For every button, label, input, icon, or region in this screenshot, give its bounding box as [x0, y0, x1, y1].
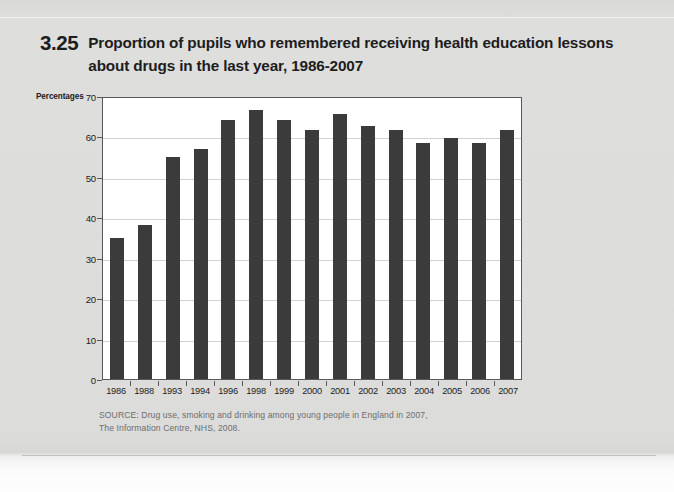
x-axis-label-text: 2000 [302, 386, 322, 396]
x-axis-tick-label: 1998 [242, 381, 270, 397]
y-axis-tick-label: 50 [36, 172, 102, 183]
bar [333, 114, 347, 379]
y-axis-tick-label: 40 [36, 213, 102, 224]
bar [389, 130, 403, 379]
y-axis-tick-label: 0 [36, 375, 102, 386]
x-axis-tick-mark [382, 381, 383, 386]
x-axis-tick-label: 2006 [466, 381, 494, 397]
x-axis-tick-mark [270, 381, 271, 386]
x-axis-tick-mark [466, 381, 467, 386]
x-axis-tick-label: 1986 [102, 381, 130, 397]
x-axis-tick-mark [298, 381, 299, 386]
x-axis-label-text: 2003 [386, 386, 406, 396]
x-axis-tick-label: 2005 [438, 381, 466, 397]
bar-slot [493, 98, 521, 379]
x-axis-tick-label: 2001 [326, 381, 354, 397]
y-axis-tick-label: 20 [36, 294, 102, 305]
x-axis-tick-mark [130, 381, 131, 386]
x-axis-label-text: 2006 [470, 386, 490, 396]
x-axis-tick-mark [186, 381, 187, 386]
bar [500, 130, 514, 379]
bar [277, 120, 291, 379]
bar [444, 138, 458, 379]
bar [110, 238, 124, 380]
bar-slot [242, 98, 270, 379]
page-background: 3.25 Proportion of pupils who remembered… [0, 0, 674, 492]
source-note: SOURCE: Drug use, smoking and drinking a… [99, 409, 559, 434]
x-axis-label-text: 1998 [246, 386, 266, 396]
x-axis-tick-mark [410, 381, 411, 386]
x-axis-tick-mark [326, 381, 327, 386]
x-axis-tick-label: 2002 [354, 381, 382, 397]
x-axis-tick-mark [242, 381, 243, 386]
bottom-divider [22, 455, 656, 456]
x-axis-label-text: 1996 [218, 386, 238, 396]
bar-slot [159, 98, 187, 379]
bar-slot [270, 98, 298, 379]
x-axis-label-text: 1994 [190, 386, 210, 396]
bar-slot [354, 98, 382, 379]
y-axis-tick-label: 60 [36, 132, 102, 143]
top-divider [0, 17, 674, 18]
bar [138, 225, 152, 379]
bar [166, 157, 180, 379]
page-title: Proportion of pupils who remembered rece… [88, 32, 633, 77]
bar-chart: Percentages 010203040506070 198619881993… [36, 92, 536, 402]
bar-slot [437, 98, 465, 379]
source-line-2: The Information Centre, NHS, 2008. [99, 422, 559, 435]
x-axis-label-text: 2007 [498, 386, 518, 396]
x-axis-tick-label: 2004 [410, 381, 438, 397]
x-axis-tick-label: 2003 [382, 381, 410, 397]
x-axis-tick-label: 2000 [298, 381, 326, 397]
x-axis-tick-label: 1994 [186, 381, 214, 397]
bar [416, 143, 430, 380]
x-axis-tick-label: 2007 [494, 381, 522, 397]
x-axis-tick-mark [438, 381, 439, 386]
x-axis-tick-label: 1999 [270, 381, 298, 397]
bar [305, 130, 319, 379]
bar [361, 126, 375, 379]
y-axis-tick-label: 70 [36, 92, 102, 103]
x-axis-labels: 1986198819931994199619981999200020012002… [102, 381, 522, 397]
x-axis-label-text: 2002 [358, 386, 378, 396]
bar-slot [103, 98, 131, 379]
bar [249, 110, 263, 379]
x-axis-label-text: 2005 [442, 386, 462, 396]
bar-slot [465, 98, 493, 379]
bar-slot [298, 98, 326, 379]
bar [472, 143, 486, 380]
bar [221, 120, 235, 379]
source-line-1: SOURCE: Drug use, smoking and drinking a… [99, 409, 559, 422]
bar-slot [131, 98, 159, 379]
bar-slot [382, 98, 410, 379]
x-axis-tick-mark [214, 381, 215, 386]
x-axis-tick-mark [354, 381, 355, 386]
figure-number: 3.25 [40, 32, 88, 54]
bar-slot [187, 98, 215, 379]
x-axis-label-text: 2004 [414, 386, 434, 396]
bar-series [103, 98, 521, 379]
x-axis-tick-label: 1996 [214, 381, 242, 397]
x-axis-label-text: 1988 [134, 386, 154, 396]
x-axis-label-text: 1993 [162, 386, 182, 396]
x-axis-tick-mark [158, 381, 159, 386]
x-axis-tick-label: 1993 [158, 381, 186, 397]
x-axis-tick-mark [494, 381, 495, 386]
x-axis-label-text: 2001 [330, 386, 350, 396]
bar-slot [409, 98, 437, 379]
y-axis-tick-label: 10 [36, 334, 102, 345]
bar-slot [214, 98, 242, 379]
plot-area [102, 97, 522, 380]
x-axis-label-text: 1986 [106, 386, 126, 396]
y-axis-tick-label: 30 [36, 253, 102, 264]
x-axis-label-text: 1999 [274, 386, 294, 396]
figure-title-block: 3.25 Proportion of pupils who remembered… [40, 32, 640, 77]
x-axis-tick-label: 1988 [130, 381, 158, 397]
bar [194, 149, 208, 379]
bar-slot [326, 98, 354, 379]
